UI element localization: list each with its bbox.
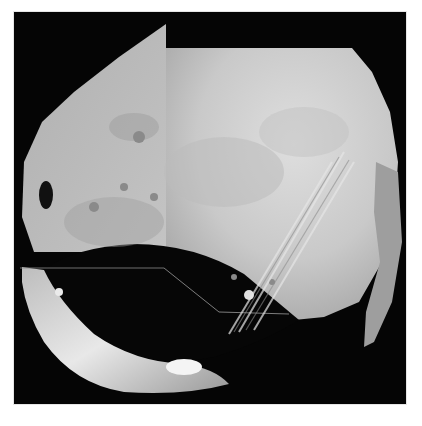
phobos-photo: Black-and-white mosaic photograph of Pho… xyxy=(14,12,406,404)
dark-crater-left xyxy=(39,181,53,209)
bright-spot xyxy=(166,359,202,375)
phobos-mosaic-illustration xyxy=(14,12,406,404)
